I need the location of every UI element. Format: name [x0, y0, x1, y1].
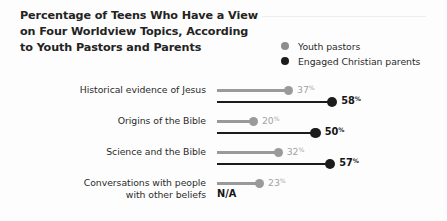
bar-value-number: 57	[339, 157, 353, 168]
percent-sign: %	[298, 146, 304, 153]
chart-row: Historical evidence of Jesus 37% 58%	[0, 84, 447, 115]
row-label: Conversations with people with other bel…	[46, 177, 206, 200]
bar-dot-youth-pastors	[255, 179, 264, 188]
legend-dot-icon-engaged-christian-parents	[281, 57, 289, 65]
percent-sign: %	[309, 84, 315, 91]
bar-dot-youth-pastors	[274, 148, 283, 157]
bar-dot-engaged-christian-parents	[327, 97, 338, 108]
bar-value-engaged-christian-parents: 50%	[325, 126, 345, 137]
bar-value-number: 37	[297, 84, 309, 95]
bar-value-engaged-christian-parents-na: N/A	[217, 188, 236, 199]
bar-value-engaged-christian-parents: 58%	[341, 95, 361, 106]
legend-dot-icon-youth-pastors	[281, 42, 289, 50]
chart-row: Origins of the Bible 20% 50%	[0, 115, 447, 146]
percent-sign: %	[355, 95, 361, 102]
chart-legend: Youth pastors Engaged Christian parents	[281, 37, 447, 67]
row-label-line: Conversations with people	[46, 177, 206, 189]
row-label: Science and the Bible	[46, 146, 206, 158]
bar-value-youth-pastors: 20%	[262, 115, 280, 126]
row-label-line: with other beliefs	[46, 189, 206, 201]
bar-value-number: 23	[268, 177, 280, 188]
bar-value-youth-pastors: 37%	[297, 84, 315, 95]
bar-dot-youth-pastors	[284, 86, 293, 95]
chart-title-line-1: Percentage of Teens Who Have a View	[20, 8, 270, 24]
bar-dot-youth-pastors	[249, 117, 258, 126]
bar-value-number: 32	[287, 146, 299, 157]
chart-title-line-3: to Youth Pastors and Parents	[20, 40, 270, 56]
bar-youth-pastors	[217, 89, 289, 92]
legend-item-engaged-christian-parents: Engaged Christian parents	[281, 52, 447, 67]
row-label: Historical evidence of Jesus	[46, 84, 206, 96]
bar-value-number: 50	[325, 126, 339, 137]
chart-title: Percentage of Teens Who Have a View on F…	[20, 8, 270, 57]
row-label-line: Historical evidence of Jesus	[46, 84, 206, 96]
bar-youth-pastors	[217, 151, 278, 154]
bar-dot-engaged-christian-parents	[310, 128, 321, 139]
percent-sign: %	[338, 126, 344, 133]
percent-sign: %	[353, 157, 359, 164]
bar-value-engaged-christian-parents: 57%	[339, 157, 359, 168]
legend-label-engaged-christian-parents: Engaged Christian parents	[298, 54, 420, 69]
row-label-line: Science and the Bible	[46, 146, 206, 158]
chart-row: Conversations with people with other bel…	[0, 177, 447, 208]
bar-engaged-christian-parents	[217, 132, 316, 135]
bar-value-youth-pastors: 23%	[268, 177, 286, 188]
bar-youth-pastors	[217, 120, 253, 123]
bar-engaged-christian-parents	[217, 163, 330, 166]
bar-value-youth-pastors: 32%	[287, 146, 305, 157]
bar-value-number: 58	[341, 95, 355, 106]
percent-sign: %	[274, 115, 280, 122]
chart-header: Percentage of Teens Who Have a View on F…	[0, 0, 447, 82]
bar-engaged-christian-parents	[217, 101, 332, 104]
chart-title-line-2: on Four Worldview Topics, According	[20, 24, 270, 40]
bar-value-number: 20	[262, 115, 274, 126]
title-divider-rule	[262, 16, 426, 17]
row-label: Origins of the Bible	[46, 115, 206, 127]
bar-dot-engaged-christian-parents	[325, 159, 336, 170]
chart-plot-area: Historical evidence of Jesus 37% 58% Ori…	[0, 84, 447, 221]
legend-item-youth-pastors: Youth pastors	[281, 37, 447, 52]
percent-sign: %	[280, 177, 286, 184]
chart-row: Science and the Bible 32% 57%	[0, 146, 447, 177]
bar-youth-pastors	[217, 182, 260, 185]
row-label-line: Origins of the Bible	[46, 115, 206, 127]
